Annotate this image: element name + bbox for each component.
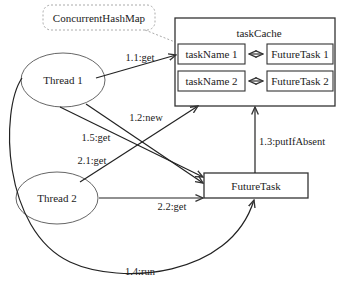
- edge-label: 2.1:get: [78, 155, 107, 166]
- edge-1-1-get: 1.1:get: [96, 52, 176, 78]
- future-task-box: FutureTask: [204, 173, 308, 198]
- futuretask-cache-diagram: ConcurrentHashMap taskCache taskName 1 F…: [0, 0, 343, 289]
- thread-2-node: Thread 2: [16, 172, 98, 224]
- task-cache-title: taskCache: [236, 27, 281, 39]
- edge-label: 1.2:new: [129, 112, 163, 123]
- thread-2-label: Thread 2: [37, 192, 76, 204]
- entry-value: FutureTask 1: [271, 48, 329, 60]
- thread-1-node: Thread 1: [21, 53, 105, 107]
- thread-1-label: Thread 1: [43, 74, 82, 86]
- concurrenthashmap-callout: ConcurrentHashMap: [43, 5, 175, 42]
- edge-label: 1.1:get: [126, 52, 155, 63]
- edge-2-2-get: 2.2:get: [99, 198, 203, 212]
- entry-key: taskName 1: [185, 48, 237, 60]
- edge-1-2-new: 1.2:new: [86, 104, 203, 183]
- entry-key: taskName 2: [185, 75, 237, 87]
- edge-label: 1.3:putIfAbsent: [259, 136, 325, 147]
- edge-label: 1.4:run: [125, 266, 156, 277]
- edge-label: 2.2:get: [158, 201, 187, 212]
- edge-label: 1.5:get: [82, 132, 111, 143]
- task-cache-box: taskCache taskName 1 FutureTask 1 taskNa…: [175, 18, 335, 106]
- callout-label: ConcurrentHashMap: [53, 12, 146, 24]
- edge-1-3-putifabsent: 1.3:putIfAbsent: [255, 107, 325, 173]
- entry-value: FutureTask 2: [271, 75, 329, 87]
- future-task-label: FutureTask: [231, 180, 281, 192]
